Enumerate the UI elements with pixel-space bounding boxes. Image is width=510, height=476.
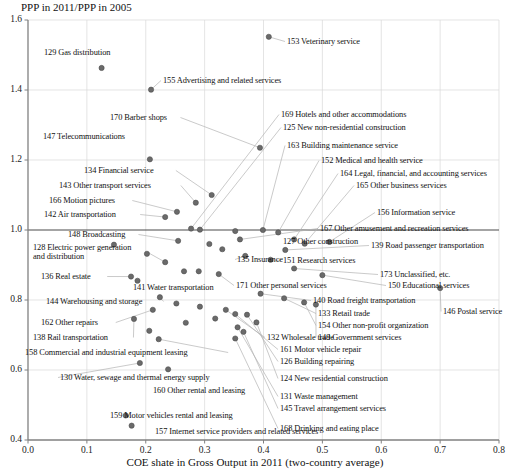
y-tick-label-0.4: 0.4: [0, 434, 22, 444]
data-point-153[interactable]: [266, 34, 271, 39]
data-point-extra-3[interactable]: [233, 228, 238, 233]
point-label-152: 152 Medical and health service: [321, 156, 423, 165]
data-point-140[interactable]: [258, 291, 263, 296]
data-point-126[interactable]: [244, 312, 249, 317]
point-label-156: 156 Information service: [377, 208, 455, 217]
data-point-173[interactable]: [292, 266, 297, 271]
leader-line-125: [200, 128, 281, 230]
point-label-154: 154 Other non-profit organization: [318, 321, 428, 330]
point-label-146: 146 Postal service: [443, 307, 502, 316]
y-tick-label-1.6: 1.6: [0, 14, 22, 24]
data-point-extra-8[interactable]: [183, 320, 188, 325]
data-point-139[interactable]: [283, 247, 288, 252]
data-point-144[interactable]: [157, 295, 162, 300]
data-point-152[interactable]: [276, 230, 281, 235]
data-point-171[interactable]: [216, 272, 221, 277]
point-label-151: 151 Research services: [283, 256, 355, 265]
y-tick-label-1.2: 1.2: [0, 154, 22, 164]
data-point-141[interactable]: [181, 269, 186, 274]
point-label-131: 131 Waste management: [280, 392, 358, 401]
point-label-139: 139 Road passenger transportation: [371, 241, 484, 250]
point-label-132: 132 Wholesale trade: [267, 333, 334, 342]
data-point-130[interactable]: [137, 360, 142, 365]
data-point-155[interactable]: [148, 87, 153, 92]
point-label-167: 167 Other amusement and recreation servi…: [320, 224, 468, 233]
data-point-158[interactable]: [156, 337, 161, 342]
data-point-168[interactable]: [233, 336, 238, 341]
x-tick-label-0.3: 0.3: [193, 445, 217, 455]
point-label-128: 128 Electric power generation and distri…: [33, 243, 143, 262]
data-point-124[interactable]: [254, 320, 259, 325]
point-label-160: 160 Other rental and leasing: [153, 386, 245, 395]
point-label-164: 164 Legal, financial, and accounting ser…: [340, 169, 487, 178]
data-point-154[interactable]: [302, 300, 307, 305]
leader-line-152: [278, 161, 319, 233]
point-label-163: 163 Building maintenance service: [287, 141, 398, 150]
data-point-extra-7[interactable]: [197, 304, 202, 309]
data-point-147[interactable]: [147, 157, 152, 162]
point-label-169: 169 Hotels and other accommodations: [281, 110, 406, 119]
data-point-134[interactable]: [209, 192, 214, 197]
data-point-136[interactable]: [128, 274, 133, 279]
point-label-147: 147 Telecommunications: [43, 132, 125, 141]
data-point-150[interactable]: [320, 273, 325, 278]
leader-line-165: [305, 186, 354, 244]
leader-line-166: [132, 201, 177, 212]
data-point-extra-9[interactable]: [213, 316, 218, 321]
data-point-132[interactable]: [223, 307, 228, 312]
point-label-143: 143 Other transport services: [59, 181, 151, 190]
x-tick-label-0.1: 0.1: [75, 445, 99, 455]
data-point-167[interactable]: [237, 237, 242, 242]
point-label-173: 173 Unclassified, etc.: [380, 270, 450, 279]
point-label-155: 155 Advertising and related services: [163, 76, 281, 85]
leader-line-142: [140, 215, 165, 218]
x-tick-label-0.8: 0.8: [487, 445, 510, 455]
point-label-158: 158 Commercial and industrial equipment …: [25, 348, 188, 357]
leader-line-170: [180, 118, 259, 148]
data-point-138[interactable]: [131, 316, 136, 321]
data-point-160[interactable]: [166, 367, 171, 372]
point-label-135: 135 Insurance: [237, 255, 283, 264]
data-point-170[interactable]: [257, 145, 262, 150]
data-point-extra-2[interactable]: [207, 241, 212, 246]
data-point-157[interactable]: [129, 423, 134, 428]
data-point-162[interactable]: [150, 307, 155, 312]
point-label-170: 170 Barber shops: [110, 113, 167, 122]
data-point-148[interactable]: [176, 238, 181, 243]
leader-line-134: [176, 171, 212, 196]
data-point-extra-4[interactable]: [196, 269, 201, 274]
data-point-extra-1[interactable]: [144, 251, 149, 256]
point-label-133: 133 Retail trade: [318, 309, 370, 318]
point-label-168: 168 Drinking and eating place: [280, 424, 379, 433]
point-label-136: 136 Real estate: [41, 272, 91, 281]
data-point-163[interactable]: [260, 227, 265, 232]
y-tick-label-1.4: 1.4: [0, 84, 22, 94]
data-point-143[interactable]: [193, 200, 198, 205]
point-label-134: 134 Financial service: [84, 166, 154, 175]
data-point-166[interactable]: [174, 209, 179, 214]
data-point-145[interactable]: [241, 329, 246, 334]
data-point-161[interactable]: [233, 311, 238, 316]
data-point-128[interactable]: [163, 260, 168, 265]
point-label-129: 129 Gas distribution: [44, 48, 110, 57]
data-point-125[interactable]: [197, 227, 202, 232]
data-point-142[interactable]: [163, 214, 168, 219]
leader-line-173: [294, 269, 378, 275]
y-tick-label-1.0: 1.0: [0, 224, 22, 234]
point-label-166: 166 Motion pictures: [49, 196, 115, 205]
leader-line-163: [263, 146, 285, 231]
leader-line-133: [284, 298, 316, 313]
data-point-169[interactable]: [188, 226, 193, 231]
point-label-141: 141 Water transportation: [133, 283, 214, 292]
data-point-133[interactable]: [282, 296, 287, 301]
data-point-129[interactable]: [99, 65, 104, 70]
leader-line-143: [181, 186, 196, 203]
data-point-127[interactable]: [220, 247, 225, 252]
point-label-159: 159 Motor vehicles rental and leasing: [110, 411, 233, 420]
point-label-165: 165 Other business services: [356, 181, 447, 190]
point-label-161: 161 Motor vehicle repair: [280, 345, 361, 354]
data-point-131[interactable]: [235, 325, 240, 330]
leader-line-150: [322, 275, 386, 285]
data-point-extra-10[interactable]: [147, 328, 152, 333]
data-point-extra-6[interactable]: [174, 301, 179, 306]
